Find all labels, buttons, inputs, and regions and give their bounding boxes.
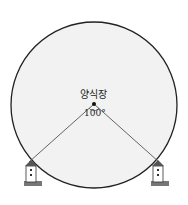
angle-label: 100° [84,108,106,118]
lighthouse-right-icon [151,160,169,186]
fish-farm-label: 양식장 [80,86,107,101]
diagram [0,0,188,205]
center-point [92,102,96,106]
